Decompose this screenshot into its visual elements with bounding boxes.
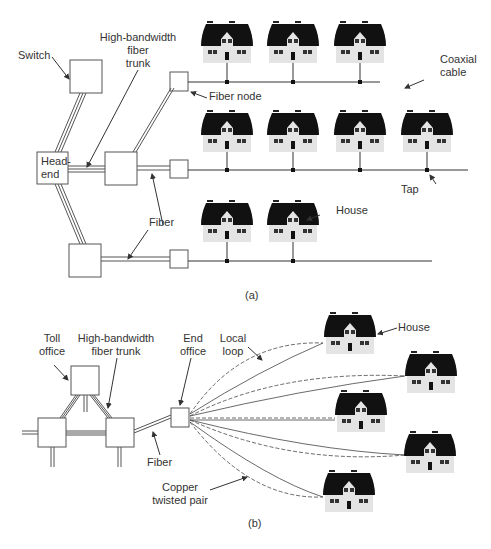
- office-box-left: [38, 418, 66, 447]
- label-switch: Switch: [18, 49, 50, 62]
- toll-office-box: [71, 366, 99, 395]
- label-fiber-node: Fiber node: [209, 90, 262, 103]
- label-end-line2: office: [176, 345, 210, 358]
- label-copper-line2: twisted pair: [150, 494, 210, 507]
- label-trunk-a: High-bandwidth fiber trunk: [98, 31, 178, 70]
- label-trunk-b-line1: High-bandwidth: [74, 332, 158, 345]
- caption-a: (a): [245, 289, 258, 302]
- label-trunk-line2: fiber: [98, 44, 178, 57]
- label-trunk-b-line2: fiber trunk: [74, 345, 158, 358]
- fiber-node-top: [170, 72, 188, 91]
- label-local-loop: Local loop: [218, 332, 248, 358]
- fiber-node-bottom: [170, 250, 188, 268]
- label-end-office: End office: [176, 332, 210, 358]
- label-head-end-line1: Head-: [41, 155, 71, 168]
- label-copper-line1: Copper: [150, 481, 210, 494]
- office-box-right: [106, 418, 134, 447]
- fiber-node-middle: [170, 160, 188, 178]
- end-office-box: [171, 408, 189, 427]
- label-copper-twisted-pair: Copper twisted pair: [150, 481, 210, 507]
- label-house-b: House: [398, 321, 430, 334]
- label-fiber-a: Fiber: [149, 216, 174, 229]
- label-toll-line2: office: [32, 345, 72, 358]
- label-trunk-b: High-bandwidth fiber trunk: [74, 332, 158, 358]
- hub-box-middle: [105, 152, 137, 185]
- diagram-canvas: [0, 0, 491, 549]
- label-trunk-line1: High-bandwidth: [98, 31, 178, 44]
- label-coaxial-line1: Coaxial: [440, 53, 477, 66]
- label-fiber-b: Fiber: [147, 456, 172, 469]
- caption-b: (b): [248, 517, 261, 530]
- label-end-line1: End: [176, 332, 210, 345]
- label-tap: Tap: [401, 183, 419, 196]
- label-loop-line1: Local: [218, 332, 248, 345]
- label-coaxial-cable: Coaxial cable: [440, 53, 477, 79]
- label-house-a: House: [336, 204, 368, 217]
- label-trunk-line3: trunk: [98, 57, 178, 70]
- label-head-end: Head- end: [41, 155, 71, 181]
- label-toll-line1: Toll: [32, 332, 72, 345]
- label-head-end-line2: end: [41, 168, 71, 181]
- label-coaxial-line2: cable: [440, 66, 477, 79]
- label-toll-office: Toll office: [32, 332, 72, 358]
- hub-box-bottom: [69, 244, 101, 277]
- label-loop-line2: loop: [218, 345, 248, 358]
